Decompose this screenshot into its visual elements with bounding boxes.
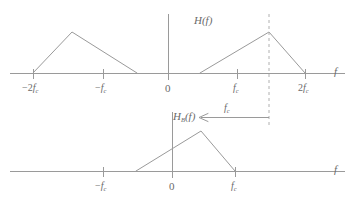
positive-band-triangle [200, 32, 305, 73]
tick-label-neg-fc-subscript: c [103, 87, 106, 94]
tick-label-bottom-neg-fc: −fc [95, 181, 106, 193]
baseband-triangle [136, 131, 235, 171]
figure-vector-layer [0, 0, 358, 202]
tick-label-neg-2fc-subscript: c [35, 87, 38, 94]
tick-label-pos-2fc: 2fc [298, 83, 309, 95]
tick-label-bottom-pos-fc: fc [231, 181, 237, 193]
top-response-label: H(f) [194, 15, 212, 26]
tick-label-neg-2fc: −2fc [22, 83, 38, 95]
negative-band-triangle [33, 32, 137, 73]
shift-annotation-subscript: c [227, 107, 230, 114]
bottom-response-label: HB(f) [173, 111, 195, 124]
top-origin-label: 0 [165, 83, 171, 94]
figure-canvas: H(f) f 0 −2fc −fc fc 2fc HB(f) fc f 0 −f… [0, 0, 358, 202]
top-axis-label: f [334, 66, 337, 77]
bottom-axis-label: f [334, 164, 337, 175]
bottom-response-label-tail: (f) [185, 110, 195, 122]
tick-label-pos-fc: fc [233, 83, 239, 95]
tick-label-bottom-neg-fc-subscript: c [103, 185, 106, 192]
tick-label-pos-fc-subscript: c [236, 87, 239, 94]
tick-label-neg-2fc-prefix: −2 [22, 82, 33, 93]
shift-annotation-label: fc [224, 103, 230, 115]
tick-label-pos-2fc-subscript: c [306, 87, 309, 94]
bottom-response-label-main: H [173, 110, 181, 122]
tick-label-neg-fc: −fc [95, 83, 106, 95]
bottom-origin-label: 0 [169, 181, 175, 192]
tick-label-bottom-pos-fc-subscript: c [234, 185, 237, 192]
